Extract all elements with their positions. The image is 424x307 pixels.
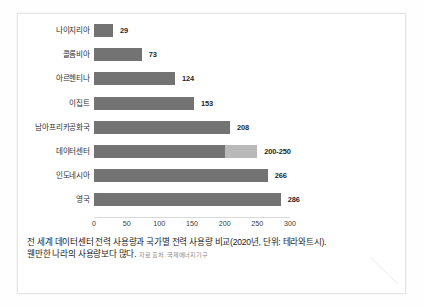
bar-row: 데이터센터200-250 [18,144,407,159]
bar-segment-main [94,97,194,110]
bar-row: 아르헨티나124 [18,71,407,86]
bar-value-label: 153 [201,96,213,111]
bar-track [94,24,113,37]
bar-segment-main [94,193,281,206]
bar-category-label: 이집트 [18,96,90,111]
bar-track [94,169,268,182]
bar-value-label: 208 [237,120,249,135]
bar-category-label: 나이지리아 [18,23,90,38]
x-axis-tick-label: 0 [79,219,109,228]
bar-row: 영국286 [18,192,407,207]
bar-value-label: 29 [120,23,128,38]
bar-category-label: 영국 [18,192,90,207]
bar-track [94,193,281,206]
bar-value-label: 200-250 [264,144,290,159]
figure-caption: 전 세계 데이터센터 전력 사용량과 국가별 전력 사용량 비교(2020년, … [27,237,399,261]
bar-value-label: 73 [149,47,157,62]
bar-category-label: 남아프리카공화국 [18,120,90,135]
bar-segment-main [94,145,225,158]
bar-row: 인도네시아266 [18,168,407,183]
bar-segment-main [94,121,230,134]
bar-value-label: 286 [288,192,300,207]
bar-row: 콜롬비아73 [18,47,407,62]
bar-row: 이집트153 [18,96,407,111]
bar-track [94,48,142,61]
bar-segment-main [94,72,175,85]
x-axis-tick-label: 300 [275,219,305,228]
bar-value-label: 124 [182,71,194,86]
bar-category-label: 데이터센터 [18,144,90,159]
chart-container: 나이지리아29콜롬비아73아르헨티나124이집트153남아프리카공화국208데이… [18,14,407,295]
bar-track [94,72,175,85]
x-axis-tick-label: 50 [112,219,142,228]
x-axis-tick-label: 200 [210,219,240,228]
source-note: 자료 출처: 국제에너지기구 [139,251,207,258]
bar-track [94,145,257,158]
bar-segment-main [94,48,142,61]
x-axis-tick-label: 250 [242,219,272,228]
bar-category-label: 아르헨티나 [18,71,90,86]
caption-line-2: 웬만한 나라의 사용량보다 많다.자료 출처: 국제에너지기구 [27,249,399,261]
bar-row: 남아프리카공화국208 [18,120,407,135]
bar-category-label: 콜롬비아 [18,47,90,62]
bar-track [94,121,230,134]
figure-root: 나이지리아29콜롬비아73아르헨티나124이집트153남아프리카공화국208데이… [0,0,424,307]
x-axis-tick-label: 150 [177,219,207,228]
bar-row: 나이지리아29 [18,23,407,38]
plot-area: 나이지리아29콜롬비아73아르헨티나124이집트153남아프리카공화국208데이… [18,23,407,219]
x-axis-tick-label: 100 [144,219,174,228]
bar-value-label: 266 [275,168,287,183]
bar-segment-main [94,24,113,37]
figure-frame: 나이지리아29콜롬비아73아르헨티나124이집트153남아프리카공화국208데이… [17,13,406,294]
bar-segment-range-extension [225,145,258,158]
caption-line-1: 전 세계 데이터센터 전력 사용량과 국가별 전력 사용량 비교(2020년, … [27,237,399,249]
x-axis-line [94,217,290,218]
caption-line-2-text: 웬만한 나라의 사용량보다 많다. [27,249,136,259]
x-axis: 050100150200250300 [18,217,407,233]
bar-category-label: 인도네시아 [18,168,90,183]
bar-track [94,97,194,110]
bar-segment-main [94,169,268,182]
